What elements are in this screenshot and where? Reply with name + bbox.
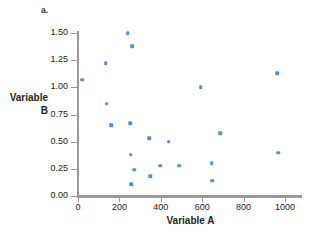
data-point [104,62,108,66]
data-point [130,44,134,48]
data-point [105,102,109,106]
y-axis-spine [77,31,79,197]
x-axis-tick-label: 200 [102,203,136,212]
y-axis-tick [71,60,77,61]
y-axis-tick [71,169,77,170]
x-axis-title: Variable A [78,215,303,226]
y-axis-tick-label: 0.00 [50,191,68,200]
y-axis-tick [71,115,77,116]
data-point [130,182,134,186]
scatter-plot: 0.000.250.500.751.001.251.50 02004006008… [0,0,314,234]
data-point [148,137,152,141]
y-axis-tick-label: 0.75 [50,110,68,119]
data-point [199,86,203,90]
y-axis-title: VariableB [2,92,48,117]
x-axis-spine [77,195,302,198]
data-point [159,164,163,168]
data-point [133,168,137,172]
y-axis-tick [71,33,77,34]
data-point [210,179,214,183]
data-point [80,78,84,82]
y-axis-tick-label: 0.25 [50,164,68,173]
data-point [129,153,133,157]
y-axis-title-line: B [2,105,48,118]
x-axis-tick-label: 400 [144,203,178,212]
data-point [276,71,280,75]
y-axis-tick [71,196,77,197]
y-axis-tick [71,142,77,143]
data-point [126,31,130,35]
data-point [277,151,281,155]
y-axis-tick-label: 1.00 [50,82,68,91]
data-point [167,140,171,144]
data-point [109,124,113,128]
y-axis-tick-label: 1.25 [50,55,68,64]
x-axis-tick-label: 800 [227,203,261,212]
data-point [178,164,182,168]
data-point [219,131,223,135]
data-point [210,162,214,166]
x-axis-tick-label: 600 [185,203,219,212]
data-point [128,121,132,125]
data-point [149,175,153,179]
y-axis-title-line: Variable [2,92,48,105]
y-axis-tick-label: 1.50 [50,28,68,37]
y-axis-tick-label: 0.50 [50,137,68,146]
x-axis-tick-label: 0 [61,203,95,212]
x-axis-tick-label: 1000 [268,203,302,212]
y-axis-tick [71,87,77,88]
